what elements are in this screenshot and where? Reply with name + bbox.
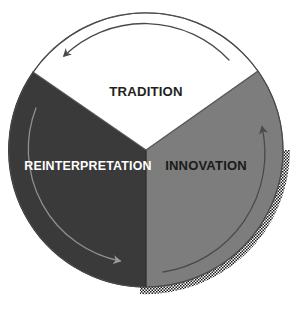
sector-label-reinterpretation: REINTERPRETATION — [24, 159, 151, 173]
cycle-diagram: TRADITION REINTERPRETATION INNOVATION — [0, 0, 300, 309]
sector-label-tradition: TRADITION — [109, 84, 183, 99]
sector-label-innovation: INNOVATION — [165, 158, 247, 173]
cycle-diagram-svg: TRADITION REINTERPRETATION INNOVATION — [0, 0, 300, 309]
